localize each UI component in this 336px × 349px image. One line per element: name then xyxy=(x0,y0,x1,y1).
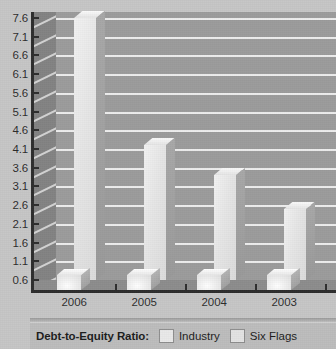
bar-industry-2005 xyxy=(127,275,151,290)
y-axis-tick-4-1: 4.1 xyxy=(13,144,28,155)
y-tick-mark xyxy=(31,129,39,131)
legend-label-six-flags: Six Flags xyxy=(250,330,297,342)
y-tick-mark xyxy=(31,260,39,262)
y-axis-tick-0-6: 0.6 xyxy=(13,275,28,286)
y-tick-mark xyxy=(31,36,39,38)
y-tick-mark xyxy=(31,92,39,94)
bar-industry-2006 xyxy=(57,275,81,290)
legend-swatch-industry xyxy=(159,329,174,343)
bar-face xyxy=(127,275,151,290)
bar-face xyxy=(57,275,81,290)
y-axis-tick-6-1: 6.1 xyxy=(13,69,28,80)
x-axis-label-2003: 2003 xyxy=(271,296,297,308)
gridline-depth xyxy=(34,144,56,161)
x-tick-mark xyxy=(115,284,117,292)
bar-six-flags-2005 xyxy=(144,145,166,280)
bar-six-flags-2004 xyxy=(214,175,236,280)
y-tick-mark xyxy=(31,185,39,187)
chart-legend: Debt-to-Equity Ratio: Industry Six Flags xyxy=(30,322,336,349)
y-axis-tick-labels: 0.61.11.62.12.63.13.64.14.65.15.66.16.67… xyxy=(0,0,30,292)
bar-face xyxy=(74,18,96,280)
y-tick-mark xyxy=(31,279,39,281)
y-axis-tick-7-6: 7.6 xyxy=(13,13,28,24)
x-tick-mark xyxy=(325,284,327,292)
gridline-depth xyxy=(34,238,56,255)
y-tick-mark xyxy=(31,204,39,206)
bar-face xyxy=(144,145,166,280)
bar-side xyxy=(96,11,105,280)
gridline-depth xyxy=(34,163,56,180)
bar-six-flags-2006 xyxy=(74,18,96,280)
y-axis-tick-2-1: 2.1 xyxy=(13,218,28,229)
bar-industry-2003 xyxy=(267,275,291,290)
y-axis-tick-5-6: 5.6 xyxy=(13,87,28,98)
x-axis-label-2006: 2006 xyxy=(61,296,87,308)
gridline-depth xyxy=(34,51,56,68)
y-tick-mark xyxy=(31,54,39,56)
x-axis-label-2005: 2005 xyxy=(131,296,157,308)
y-axis-tick-7-1: 7.1 xyxy=(13,31,28,42)
gridline-depth xyxy=(34,125,56,142)
y-tick-mark xyxy=(31,223,39,225)
debt-to-equity-ratio-chart: 0.61.11.62.12.63.13.64.14.65.15.66.16.67… xyxy=(0,0,336,349)
legend-swatch-six-flags xyxy=(230,329,245,343)
x-axis-line xyxy=(31,290,336,293)
y-axis-tick-2-6: 2.6 xyxy=(13,200,28,211)
y-axis-tick-1-6: 1.6 xyxy=(13,237,28,248)
y-tick-mark xyxy=(31,73,39,75)
y-tick-mark xyxy=(31,111,39,113)
bar-side xyxy=(236,168,245,280)
y-tick-mark xyxy=(31,17,39,19)
x-axis-label-2004: 2004 xyxy=(201,296,227,308)
bar-side xyxy=(306,202,315,280)
y-tick-mark xyxy=(31,167,39,169)
gridline-depth xyxy=(34,256,56,273)
y-tick-mark xyxy=(31,242,39,244)
x-tick-mark xyxy=(185,284,187,292)
bar-face xyxy=(197,275,221,290)
bar-side xyxy=(166,138,175,280)
legend-title: Debt-to-Equity Ratio: xyxy=(36,330,149,342)
bar-face xyxy=(267,275,291,290)
bar-face xyxy=(214,175,236,280)
legend-label-industry: Industry xyxy=(179,330,220,342)
y-axis-tick-5-1: 5.1 xyxy=(13,106,28,117)
y-axis-tick-4-6: 4.6 xyxy=(13,125,28,136)
bar-industry-2004 xyxy=(197,275,221,290)
y-axis-tick-6-6: 6.6 xyxy=(13,50,28,61)
legend-item-six-flags[interactable]: Six Flags xyxy=(230,329,297,343)
y-axis-tick-3-1: 3.1 xyxy=(13,181,28,192)
legend-item-industry[interactable]: Industry xyxy=(159,329,220,343)
gridline-depth xyxy=(34,69,56,86)
gridline-depth xyxy=(34,32,56,49)
y-axis-tick-3-6: 3.6 xyxy=(13,162,28,173)
y-axis-tick-1-1: 1.1 xyxy=(13,256,28,267)
gridline-depth xyxy=(34,219,56,236)
gridline-depth xyxy=(34,107,56,124)
gridline-depth xyxy=(34,182,56,199)
gridline-depth xyxy=(34,13,56,30)
gridline-depth xyxy=(34,88,56,105)
x-tick-mark xyxy=(255,284,257,292)
gridline-depth xyxy=(34,200,56,217)
y-tick-mark xyxy=(31,148,39,150)
